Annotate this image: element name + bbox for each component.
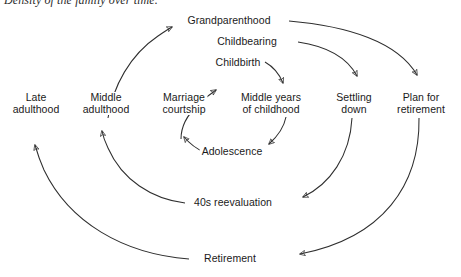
node-childbearing[interactable]: Childbearing	[215, 36, 279, 48]
node-forties-reeval-line1: 40s reevaluation	[194, 197, 272, 209]
node-middle-adulthood[interactable]: Middle adulthood	[81, 92, 132, 115]
node-late-adulthood[interactable]: Late adulthood	[11, 92, 62, 115]
edge-reeval-to-middleadulthood	[102, 131, 185, 203]
node-settling-down-line1: Settling	[336, 92, 371, 104]
edge-retirement-to-lateadulthood	[35, 145, 189, 259]
edge-grandparenthood-to-plan	[289, 21, 417, 75]
node-middle-years-line2: of childhood	[241, 104, 301, 116]
edge-middleyears-to-adolescence	[269, 117, 286, 144]
edge-childbearing-to-settling	[298, 42, 357, 76]
node-middle-adulthood-line2: adulthood	[83, 104, 130, 116]
node-middle-adulthood-line1: Middle	[83, 92, 130, 104]
node-middle-years[interactable]: Middle years of childhood	[239, 92, 303, 115]
edge-childbirth-to-middleyears	[265, 62, 283, 83]
node-settling-down[interactable]: Settling down	[334, 92, 373, 115]
node-marriage-courtship[interactable]: Marriage courtship	[160, 92, 207, 115]
node-marriage-courtship-line2: courtship	[162, 104, 205, 116]
node-settling-down-line2: down	[336, 104, 371, 116]
node-marriage-courtship-line1: Marriage	[162, 92, 205, 104]
node-retirement[interactable]: Retirement	[202, 253, 258, 265]
node-retirement-line1: Retirement	[204, 253, 256, 265]
edge-plan-to-retirement	[300, 118, 419, 254]
node-middle-years-line1: Middle years	[241, 92, 301, 104]
figure-canvas: Density of the family over time. Grandpa…	[0, 0, 461, 277]
node-forties-reeval[interactable]: 40s reevaluation	[192, 197, 274, 209]
node-late-adulthood-line2: adulthood	[13, 104, 60, 116]
node-childbirth[interactable]: Childbirth	[214, 57, 263, 69]
node-plan-retirement-line2: retirement	[397, 104, 445, 116]
node-adolescence-line1: Adolescence	[202, 146, 263, 158]
node-adolescence[interactable]: Adolescence	[200, 146, 265, 158]
node-childbirth-line1: Childbirth	[216, 57, 261, 69]
node-plan-retirement[interactable]: Plan for retirement	[395, 92, 447, 115]
node-plan-retirement-line1: Plan for	[397, 92, 445, 104]
edge-settling-to-reeval	[303, 118, 352, 197]
node-late-adulthood-line1: Late	[13, 92, 60, 104]
node-childbearing-line1: Childbearing	[217, 36, 277, 48]
node-grandparenthood[interactable]: Grandparenthood	[185, 15, 272, 27]
node-grandparenthood-line1: Grandparenthood	[187, 15, 270, 27]
